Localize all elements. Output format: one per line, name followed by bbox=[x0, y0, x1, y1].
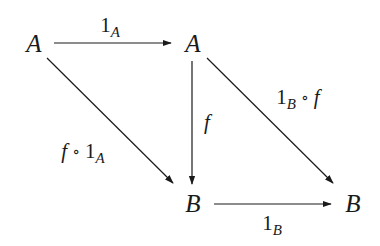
node-bottom-middle: B bbox=[185, 191, 200, 216]
label-bottom-arrow: 1B bbox=[262, 213, 282, 234]
label-tail: f bbox=[314, 85, 320, 109]
label-vertical-arrow: f bbox=[204, 112, 210, 133]
node-bottom-right: B bbox=[345, 191, 360, 216]
label-subscript: B bbox=[273, 222, 282, 238]
arrow-right-diagonal bbox=[207, 58, 333, 183]
compose-operator: ∘ bbox=[72, 143, 80, 160]
label-tail: 1 bbox=[85, 139, 96, 163]
label-right-diagonal: 1B∘f bbox=[276, 87, 319, 108]
label-subscript: A bbox=[96, 150, 105, 166]
label-subscript: B bbox=[287, 96, 296, 112]
label-base: 1 bbox=[262, 211, 273, 235]
label-left-diagonal: f∘1A bbox=[61, 141, 104, 162]
node-top-right: A bbox=[185, 31, 200, 56]
label-base: f bbox=[61, 139, 67, 163]
arrow-left-diagonal bbox=[47, 58, 173, 183]
label-subscript: A bbox=[111, 24, 120, 40]
label-base: 1 bbox=[100, 13, 111, 37]
compose-operator: ∘ bbox=[301, 89, 309, 106]
label-base: f bbox=[204, 110, 210, 134]
label-top-arrow: 1A bbox=[100, 15, 120, 36]
node-top-left: A bbox=[26, 31, 41, 56]
label-base: 1 bbox=[276, 85, 287, 109]
